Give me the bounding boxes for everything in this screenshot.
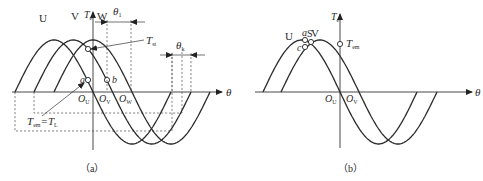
axis-label-te: Te bbox=[331, 11, 340, 23]
figure-b: UV OUOV aSc Tem θ Te （b） bbox=[255, 11, 481, 174]
zero-label-w: OW bbox=[119, 93, 132, 105]
curve-label-w: W bbox=[97, 10, 108, 22]
label-theta1: θ1 bbox=[113, 5, 121, 18]
zero-labels: OUOVOW bbox=[78, 93, 132, 105]
point-label-b: b bbox=[112, 74, 117, 85]
point-label-s: S bbox=[307, 28, 313, 39]
label-t-em: Tem bbox=[346, 37, 360, 50]
point-label-c: c bbox=[297, 42, 302, 53]
curve-label-u: U bbox=[39, 12, 47, 24]
label-t-st: Tst bbox=[146, 34, 156, 47]
point-label-a: a bbox=[80, 74, 85, 85]
axis-label-theta: θ bbox=[475, 86, 481, 98]
diagram-canvas: UVW OUOVOW ab TstTem=TLθ1θk θ Te （a） UV … bbox=[0, 0, 483, 181]
label-tem-equals-tl: Tem=TL bbox=[27, 115, 58, 128]
operating-point-a bbox=[85, 77, 90, 82]
dashed-guide bbox=[15, 52, 172, 131]
figure-a: UVW OUOVOW ab TstTem=TLθ1θk θ Te （a） bbox=[12, 5, 232, 174]
operating-point-3 bbox=[337, 41, 342, 46]
axis-label-te: Te bbox=[84, 9, 93, 21]
figure-caption-a: （a） bbox=[80, 163, 104, 174]
annotations: Tem bbox=[346, 37, 360, 50]
curve-label-v: V bbox=[71, 10, 79, 22]
zero-label-u: OU bbox=[325, 93, 337, 105]
zero-label-u: OU bbox=[78, 93, 90, 105]
curve-label-u: U bbox=[285, 30, 293, 42]
figure-caption-b: （b） bbox=[338, 163, 363, 174]
label-thetak: θk bbox=[176, 39, 184, 52]
operating-point-c bbox=[302, 44, 307, 49]
operating-point-2 bbox=[85, 46, 90, 51]
zero-label-v: OV bbox=[346, 93, 358, 105]
operating-point-s bbox=[308, 39, 313, 44]
annotations: TstTem=TLθ1θk bbox=[27, 5, 205, 128]
zero-label-v: OV bbox=[99, 93, 111, 105]
axis-label-theta: θ bbox=[226, 86, 232, 98]
